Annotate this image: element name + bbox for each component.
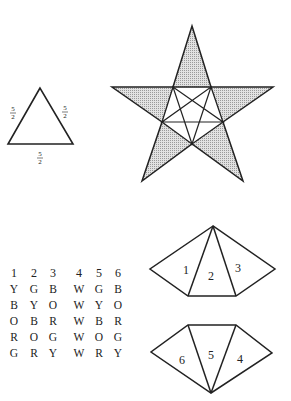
svg-text:W: W (74, 331, 85, 343)
svg-text:G: G (95, 283, 103, 295)
svg-text:2: 2 (63, 112, 67, 120)
star-point-bottom-left (142, 122, 192, 181)
svg-text:B: B (95, 315, 103, 327)
face-label-5: 5 (208, 348, 214, 362)
face-label-1: 1 (183, 263, 189, 277)
svg-text:B: B (10, 299, 18, 311)
bottom-side-label: 5 2 (37, 150, 43, 166)
svg-text:O: O (49, 299, 57, 311)
svg-text:Y: Y (49, 347, 58, 359)
color-table: 1 2 3 4 5 6 Y G B W G B B Y O W Y O O B … (10, 266, 123, 359)
svg-text:R: R (49, 315, 57, 327)
face-label-4: 4 (237, 352, 243, 366)
svg-text:O: O (10, 315, 18, 327)
star-point-top (173, 26, 211, 87)
svg-text:W: W (74, 315, 85, 327)
svg-text:5: 5 (38, 150, 42, 158)
svg-text:W: W (74, 347, 85, 359)
svg-text:1: 1 (11, 266, 17, 280)
svg-text:Y: Y (95, 299, 104, 311)
svg-text:G: G (30, 283, 38, 295)
svg-text:B: B (49, 283, 57, 295)
svg-text:R: R (30, 347, 38, 359)
svg-text:R: R (10, 331, 18, 343)
svg-text:Y: Y (114, 347, 123, 359)
svg-text:B: B (114, 283, 122, 295)
table-row: G R Y W R Y (10, 347, 123, 359)
svg-text:3: 3 (50, 266, 56, 280)
svg-text:R: R (114, 315, 122, 327)
svg-text:5: 5 (11, 105, 15, 113)
svg-text:O: O (30, 331, 38, 343)
right-side-label: 5 2 (62, 104, 68, 120)
pentagram-star (112, 26, 273, 181)
table-header: 1 2 3 4 5 6 (11, 266, 121, 280)
svg-text:G: G (49, 331, 57, 343)
svg-text:2: 2 (38, 158, 42, 166)
top-pyramid-net: 1 2 3 (150, 226, 275, 296)
svg-text:G: G (114, 331, 122, 343)
svg-text:Y: Y (30, 299, 39, 311)
table-row: R O G W O G (10, 331, 122, 343)
svg-text:B: B (30, 315, 38, 327)
svg-text:Y: Y (10, 283, 19, 295)
face-label-6: 6 (179, 353, 185, 367)
equilateral-triangle: 5 2 5 2 5 2 (8, 88, 73, 166)
diagram-canvas: 5 2 5 2 5 2 1 2 3 (0, 0, 291, 401)
svg-text:5: 5 (96, 266, 102, 280)
svg-text:5: 5 (63, 104, 67, 112)
table-row: O B R W B R (10, 315, 122, 327)
bottom-pyramid-net: 6 5 4 (151, 325, 272, 393)
svg-text:4: 4 (76, 266, 82, 280)
star-point-bottom-right (192, 122, 243, 181)
svg-text:G: G (10, 347, 18, 359)
svg-text:2: 2 (11, 113, 15, 121)
table-row: Y G B W G B (10, 283, 122, 295)
face-label-3: 3 (235, 261, 241, 275)
star-point-right (211, 87, 273, 122)
svg-text:W: W (74, 299, 85, 311)
svg-text:2: 2 (31, 266, 37, 280)
face-label-2: 2 (208, 269, 214, 283)
svg-text:O: O (114, 299, 122, 311)
svg-text:W: W (74, 283, 85, 295)
table-row: B Y O W Y O (10, 299, 122, 311)
left-side-label: 5 2 (10, 105, 16, 121)
svg-text:R: R (95, 347, 103, 359)
svg-text:6: 6 (115, 266, 121, 280)
svg-text:O: O (95, 331, 103, 343)
